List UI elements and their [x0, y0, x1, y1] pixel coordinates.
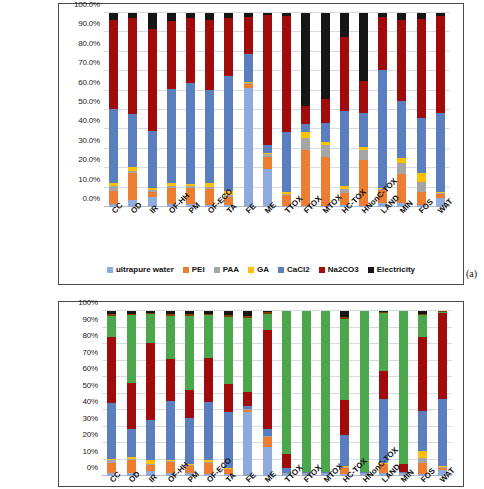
bar-segment-cacl2[interactable] [148, 131, 157, 187]
bar-of-eco[interactable] [204, 311, 213, 476]
bar-segment-electricity[interactable] [205, 13, 214, 20]
bar-segment-paa[interactable] [321, 145, 330, 157]
bar-fos[interactable] [418, 311, 427, 476]
bar-segment-cacl2[interactable] [186, 83, 195, 184]
bar-ta[interactable] [224, 13, 233, 207]
bar-segment-transport[interactable] [302, 311, 311, 472]
bar-segment-na2co3[interactable] [263, 15, 272, 145]
bar-segment-na2co3[interactable] [379, 371, 388, 399]
bar-segment-ultrapure-water[interactable] [243, 412, 252, 476]
bar-segment-paa[interactable] [417, 182, 426, 192]
bar-segment-cacl2[interactable] [397, 101, 406, 157]
bar-segment-na2co3[interactable] [107, 337, 116, 402]
bar-me[interactable] [263, 311, 272, 476]
bar-segment-na2co3[interactable] [301, 106, 310, 123]
legend-item-electricity[interactable]: Electricity [368, 266, 415, 274]
bar-segment-cacl2[interactable] [146, 420, 155, 460]
bar-segment-electricity[interactable] [109, 13, 118, 20]
bar-segment-na2co3[interactable] [359, 81, 368, 113]
bar-segment-cacl2[interactable] [109, 109, 118, 183]
bar-segment-cacl2[interactable] [340, 111, 349, 186]
bar-min[interactable] [397, 13, 406, 207]
bar-fos[interactable] [417, 13, 426, 207]
bar-segment-na2co3[interactable] [340, 37, 349, 112]
bar-ftox[interactable] [302, 311, 311, 476]
legend-item-na2co3[interactable]: Na2CO3 [319, 266, 359, 274]
bar-segment-cacl2[interactable] [244, 54, 253, 82]
bar-segment-na2co3[interactable] [418, 337, 427, 410]
bar-hc-tox[interactable] [340, 311, 349, 476]
bar-segment-ultrapure-water[interactable] [244, 88, 253, 207]
bar-segment-cacl2[interactable] [263, 145, 272, 153]
bar-segment-na2co3[interactable] [109, 20, 118, 109]
bar-segment-transport[interactable] [243, 318, 252, 392]
bar-segment-na2co3[interactable] [397, 20, 406, 101]
bar-segment-transport[interactable] [185, 316, 194, 390]
bar-segment-ga[interactable] [418, 451, 427, 458]
bar-segment-na2co3[interactable] [378, 17, 387, 70]
bar-segment-na2co3[interactable] [224, 384, 233, 411]
bar-segment-pei[interactable] [263, 157, 272, 170]
bar-segment-na2co3[interactable] [127, 383, 136, 429]
bar-segment-cacl2[interactable] [205, 90, 214, 183]
legend-item-cacl2[interactable]: CaCl2 [278, 266, 310, 274]
bar-od[interactable] [128, 13, 137, 207]
bar-segment-transport[interactable] [379, 313, 388, 371]
bar-segment-transport[interactable] [204, 315, 213, 358]
bar-land[interactable] [378, 13, 387, 207]
bar-segment-cacl2[interactable] [167, 89, 176, 183]
bar-mtox[interactable] [321, 311, 330, 476]
bar-segment-na2co3[interactable] [282, 454, 291, 468]
bar-segment-na2co3[interactable] [436, 16, 445, 113]
bar-segment-transport[interactable] [127, 315, 136, 383]
bar-segment-na2co3[interactable] [204, 358, 213, 402]
bar-segment-transport[interactable] [399, 311, 408, 464]
bar-segment-cacl2[interactable] [263, 429, 272, 436]
bar-segment-pei[interactable] [128, 173, 137, 200]
bar-segment-cacl2[interactable] [204, 402, 213, 461]
bar-segment-na2co3[interactable] [185, 390, 194, 418]
bar-ir[interactable] [148, 13, 157, 207]
bar-fe[interactable] [243, 311, 252, 476]
bar-of-hh[interactable] [166, 311, 175, 476]
bar-segment-cacl2[interactable] [417, 118, 426, 172]
legend-item-ultrapure-water[interactable]: ultrapure water [107, 266, 174, 274]
bar-of-eco[interactable] [205, 13, 214, 207]
bar-pm[interactable] [185, 311, 194, 476]
bar-segment-cacl2[interactable] [128, 114, 137, 167]
bar-segment-na2co3[interactable] [417, 19, 426, 118]
bar-segment-na2co3[interactable] [166, 359, 175, 401]
bar-segment-na2co3[interactable] [146, 343, 155, 420]
bar-hnonc-tox[interactable] [359, 13, 368, 207]
bar-segment-cacl2[interactable] [418, 411, 427, 451]
bar-segment-electricity[interactable] [340, 13, 349, 37]
bar-segment-transport[interactable] [224, 317, 233, 385]
bar-segment-transport[interactable] [360, 311, 369, 472]
bar-wat[interactable] [436, 13, 445, 207]
bar-segment-na2co3[interactable] [263, 330, 272, 429]
bar-hnonc-tox[interactable] [360, 311, 369, 476]
bar-segment-na2co3[interactable] [243, 392, 252, 406]
bar-ta[interactable] [224, 311, 233, 476]
bar-segment-ga[interactable] [417, 173, 426, 183]
bar-segment-transport[interactable] [321, 311, 330, 472]
bar-segment-cacl2[interactable] [438, 399, 447, 467]
bar-segment-transport[interactable] [107, 316, 116, 337]
bar-segment-transport[interactable] [146, 314, 155, 343]
bar-segment-cacl2[interactable] [340, 435, 349, 466]
legend-item-ga[interactable]: GA [248, 266, 269, 274]
bar-segment-na2co3[interactable] [205, 20, 214, 90]
bar-segment-pei[interactable] [263, 437, 272, 447]
bar-segment-cacl2[interactable] [301, 124, 310, 133]
bar-segment-na2co3[interactable] [128, 18, 137, 114]
bar-segment-cacl2[interactable] [224, 76, 233, 191]
bar-ftox[interactable] [301, 13, 310, 207]
bar-segment-na2co3[interactable] [148, 29, 157, 132]
bar-segment-na2co3[interactable] [186, 18, 195, 83]
bar-segment-cacl2[interactable] [185, 418, 194, 464]
bar-segment-cacl2[interactable] [436, 113, 445, 192]
bar-ttox[interactable] [282, 311, 291, 476]
bar-segment-paa[interactable] [397, 163, 406, 174]
bar-segment-na2co3[interactable] [340, 400, 349, 435]
bar-segment-electricity[interactable] [397, 13, 406, 20]
